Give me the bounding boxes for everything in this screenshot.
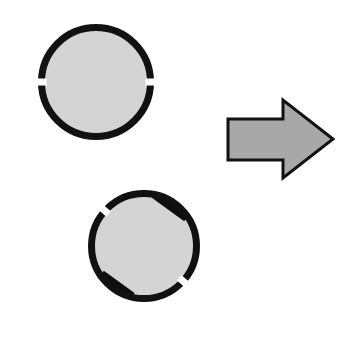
top-disc-right-gap	[146, 79, 156, 86]
top-disc-left-gap	[37, 79, 47, 86]
rotation-figure: Mental rotation item: slotted disc shown…	[0, 0, 340, 354]
figure-canvas	[0, 0, 340, 354]
